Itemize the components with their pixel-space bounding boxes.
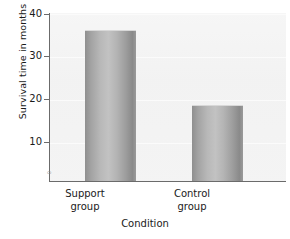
x-category-label-control-group-line2: group	[132, 201, 252, 214]
x-category-label-support-group-line1: Support	[25, 188, 145, 201]
x-category-label-support-group: Support group	[25, 188, 145, 213]
y-tick-label-10: 10	[2, 136, 42, 147]
y-tick-label-0: 0	[46, 171, 52, 181]
plot-area	[50, 13, 286, 181]
x-category-label-control-group-line1: Control	[132, 188, 252, 201]
y-tick-30	[44, 56, 50, 57]
y-tick-label-40: 40	[2, 8, 42, 19]
y-tick-label-30: 30	[2, 50, 42, 61]
gridline-40	[50, 14, 286, 15]
y-tick-10	[44, 142, 50, 143]
x-category-label-control-group: Control group	[132, 188, 252, 213]
bar-chart: Survival time in months 40 30 20 10 0 Su…	[0, 0, 290, 239]
y-tick-20	[44, 99, 50, 100]
y-tick-label-20: 20	[2, 93, 42, 104]
y-tick-40	[44, 14, 50, 15]
bar-control-group	[192, 105, 243, 181]
x-axis-title: Condition	[0, 218, 290, 229]
y-axis-line	[49, 13, 50, 182]
bar-support-group	[85, 30, 136, 181]
x-category-label-support-group-line2: group	[25, 201, 145, 214]
x-axis-line	[49, 181, 286, 182]
y-axis-title: Survival time in months	[17, 0, 28, 152]
